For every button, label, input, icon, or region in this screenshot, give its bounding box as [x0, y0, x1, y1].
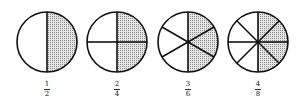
division-line [162, 42, 188, 57]
fraction-numerator: 3 [178, 81, 198, 88]
division-line [237, 21, 258, 42]
fraction-label-4: 4 8 [248, 81, 268, 98]
fraction-label-3: 3 6 [178, 81, 198, 98]
division-line [237, 42, 258, 63]
fraction-numerator: 4 [248, 81, 268, 88]
fraction-denominator: 4 [107, 91, 127, 98]
fraction-numerator: 2 [107, 81, 127, 88]
fraction-denominator: 2 [37, 91, 57, 98]
fraction-circle-1 [17, 12, 77, 72]
fraction-denominator: 8 [248, 91, 268, 98]
fraction-denominator: 6 [178, 91, 198, 98]
division-line [162, 27, 188, 42]
fraction-numerator: 1 [37, 81, 57, 88]
fraction-circle-4 [228, 12, 288, 72]
shaded-sector [47, 12, 77, 72]
fraction-label-2: 2 4 [107, 81, 127, 98]
fraction-label-1: 1 2 [37, 81, 57, 98]
fraction-circle-3 [158, 12, 218, 72]
fraction-circle-2 [87, 12, 147, 72]
